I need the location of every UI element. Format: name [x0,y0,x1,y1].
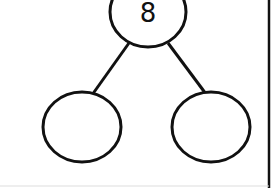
part-circle-left [43,92,121,162]
diagram-svg: 8 [0,0,276,188]
whole-value: 8 [140,0,157,28]
number-bond-diagram: 8 [0,0,276,188]
connector-right [168,43,206,94]
connector-left [92,43,129,95]
part-circle-right [172,92,250,162]
